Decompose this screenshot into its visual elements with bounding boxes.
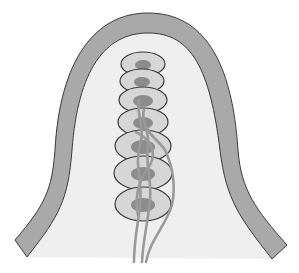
cell-nucleus [134,77,150,87]
dome-tissue-diagram [0,0,299,273]
cell [115,187,171,221]
cell-nucleus [131,198,155,212]
diagram-canvas [0,0,299,273]
cell-nucleus [133,95,153,107]
cell [114,156,172,190]
